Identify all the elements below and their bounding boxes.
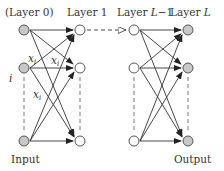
layer1-node-1: [75, 25, 85, 35]
xi-label-mid: xi: [51, 54, 59, 68]
layer-1-label: Layer 1: [67, 6, 107, 18]
vertical-dashed-lines: [24, 77, 188, 133]
layer-L-label: Layer L: [170, 6, 211, 18]
connections-layerL1-layerL: [140, 30, 182, 141]
output-node-2: [183, 63, 193, 73]
layer1-node-2: [75, 63, 85, 73]
input-label: Input: [11, 153, 40, 165]
xi-label-upper: xi: [28, 52, 36, 66]
layerL1-node-2: [129, 63, 139, 73]
layerL1-node-1: [129, 25, 139, 35]
input-node-n: [19, 136, 29, 146]
network-diagram: (Layer 0) Layer 1 Layer L−1 Layer L: [0, 0, 224, 171]
layer-L-minus-1-label: Layer L−1: [117, 6, 173, 18]
output-node-1: [183, 25, 193, 35]
nodes: [19, 25, 193, 146]
output-label: Output: [174, 153, 212, 165]
index-i-label: i: [9, 72, 12, 84]
connections-layer0-layer1: [30, 30, 74, 141]
input-node-1: [19, 25, 29, 35]
output-node-n: [183, 136, 193, 146]
layer1-node-n: [75, 136, 85, 146]
layerL1-node-n: [129, 136, 139, 146]
xi-label-lower: xi: [33, 88, 41, 102]
input-node-i: [19, 63, 29, 73]
layer-0-label: (Layer 0): [5, 6, 54, 18]
